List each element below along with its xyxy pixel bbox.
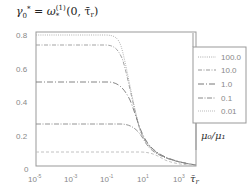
series-line-100	[36, 35, 196, 165]
y-tick-label: 0	[24, 165, 29, 174]
x-tick-label: 10-3	[64, 173, 78, 184]
y-tick-label: 0.8	[16, 31, 28, 40]
x-tick-label: 10-5	[28, 173, 42, 184]
series-line-10	[36, 45, 196, 165]
x-tick-label: 10-1	[100, 173, 114, 184]
series-lines	[36, 35, 196, 165]
x-axis: 10-5 10-3 10-1 101 103 τ̄r	[28, 173, 200, 186]
series-line-0.01	[36, 152, 196, 165]
x-axis-label: τ̄r	[190, 173, 200, 186]
svg-text:0.01: 0.01	[221, 107, 237, 116]
svg-text:100.0: 100.0	[221, 53, 242, 62]
x-tick-label: 101	[137, 173, 149, 184]
plot-area-frame	[36, 32, 196, 166]
chart: γ0* = ω(1)*(0, τ̄r) 0.8 0.6 0.4 0.2 0 10…	[0, 0, 247, 189]
series-line-0.1	[36, 124, 196, 165]
legend: 100.0 10.0 1.0 0.1 0.01 μ₀/μ₁	[193, 33, 246, 150]
series-line-1	[36, 82, 196, 165]
y-tick-label: 0.2	[16, 132, 28, 141]
svg-text:0.1: 0.1	[221, 94, 233, 103]
x-tick-label: 103	[173, 173, 185, 184]
y-tick-label: 0.6	[16, 65, 28, 74]
svg-text:1.0: 1.0	[221, 80, 233, 89]
y-tick-label: 0.4	[16, 98, 28, 107]
y-axis: 0.8 0.6 0.4 0.2 0	[16, 31, 29, 174]
chart-title: γ0* = ω(1)*(0, τ̄r)	[16, 4, 98, 20]
legend-title: μ₀/μ₁	[201, 130, 225, 141]
svg-text:10.0: 10.0	[221, 66, 237, 75]
